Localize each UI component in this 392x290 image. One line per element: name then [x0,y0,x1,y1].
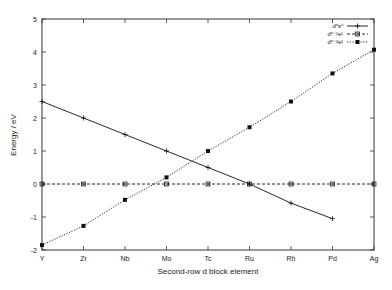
series-2 [40,182,376,186]
y-tick-label: -1 [31,214,37,221]
y-tick-label: 0 [33,181,37,188]
legend-label: dⁿ⁻¹s¹ [327,31,343,37]
x-tick-label: Y [40,255,45,262]
legend-label: dⁿ⁻²s² [327,39,343,45]
x-axis-label: Second-row d block element [158,267,260,276]
y-tick-label: 3 [33,82,37,89]
plot-series [40,48,377,247]
y-tick-label: 4 [33,49,37,56]
y-tick-label: 2 [33,115,37,122]
y-tick-label: 1 [33,148,37,155]
energy-chart: -2-1012345YZrNbMoTcRuRhPdAg dⁿs⁰dⁿ⁻¹s¹dⁿ… [0,0,392,290]
x-tick-label: Ru [245,255,254,262]
y-tick-label: -2 [31,247,37,254]
x-tick-label: Ag [370,255,379,263]
series-1 [40,99,336,221]
y-tick-label: 5 [33,16,37,23]
x-tick-label: Rh [287,255,296,262]
legend-label: dⁿs⁰ [332,23,344,29]
x-tick-label: Pd [328,255,337,262]
legend: dⁿs⁰dⁿ⁻¹s¹dⁿ⁻²s² [327,23,368,45]
x-tick-label: Nb [121,255,130,262]
x-tick-label: Tc [205,255,213,262]
x-tick-label: Zr [80,255,87,262]
x-tick-label: Mo [162,255,172,262]
series-3 [40,48,376,247]
y-axis-label: Energy / eV [9,113,18,155]
